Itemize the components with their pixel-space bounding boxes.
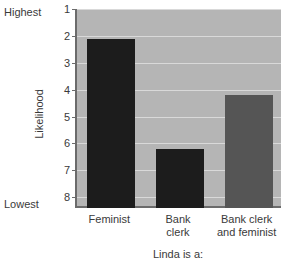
x-axis-title: Linda is a: xyxy=(75,248,281,260)
y-axis-tick-mark xyxy=(72,9,77,10)
y-axis-top-annotation: Highest xyxy=(4,6,41,18)
gridline xyxy=(77,36,281,37)
y-axis-tick-mark xyxy=(72,36,77,37)
y-axis-tick-label: 7 xyxy=(48,164,70,176)
y-axis-tick-mark xyxy=(72,170,77,171)
y-axis-bottom-annotation: Lowest xyxy=(4,198,39,210)
y-axis-tick-mark xyxy=(72,117,77,118)
bar xyxy=(156,149,204,208)
x-axis-tick-label: Feminist xyxy=(75,213,144,226)
y-axis-tick-label: 3 xyxy=(48,57,70,69)
y-axis-tick-label: 4 xyxy=(48,84,70,96)
x-axis-tick-label: Bank clerk xyxy=(144,213,213,239)
y-axis-tick-mark xyxy=(72,197,77,198)
bar xyxy=(87,39,135,208)
x-axis-tick-label: Bank clerk and feminist xyxy=(212,213,281,239)
bar xyxy=(225,95,273,208)
y-axis-tick-label: 5 xyxy=(48,111,70,123)
y-axis-title: Likelihood xyxy=(33,69,45,159)
y-axis-tick-label: 8 xyxy=(48,191,70,203)
y-axis-tick-label: 2 xyxy=(48,30,70,42)
y-axis-tick-label: 1 xyxy=(48,3,70,15)
y-axis-tick-mark xyxy=(72,90,77,91)
y-axis-tick-label: 6 xyxy=(48,137,70,149)
y-axis-tick-mark xyxy=(72,63,77,64)
gridline xyxy=(77,9,281,10)
plot-area xyxy=(75,9,281,208)
chart-figure: Highest Lowest Likelihood 12345678 Femin… xyxy=(0,0,289,267)
y-axis-tick-mark xyxy=(72,143,77,144)
